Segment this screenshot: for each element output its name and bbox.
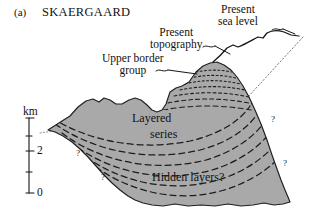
label-present-sea-level-line2: sea level [218,15,258,27]
label-upper-border-group-line1: Upper border [102,52,164,64]
km-axis [26,118,34,193]
question-mark-left-lower: ? [101,172,105,182]
axis-tick-label-0: 0 [37,187,43,199]
label-hidden-layers: Hidden layers? [152,171,224,183]
question-mark-left-upper: ? [76,148,80,158]
sea-level-leader [283,29,295,34]
label-upper-border-group: Upper border group [102,52,164,76]
label-upper-border-group-line2: group [102,64,164,76]
label-present-topography: Present topography [150,26,202,50]
label-present-topography-line2: topography [150,38,202,50]
sea-level-squiggle [272,29,283,30]
label-layered-series-line1: Layered [132,112,171,124]
question-mark-right-lower: ? [283,158,287,168]
label-layered-series-line2: series [150,128,177,140]
label-present-sea-level-line1: Present [218,3,258,15]
question-mark-right-upper: ? [271,114,275,124]
page-title: SKAERGAARD [42,6,130,19]
ubg-leader [168,70,197,74]
label-present-sea-level: Present sea level [218,3,258,27]
axis-unit-label: km [23,106,38,118]
label-present-topography-line1: Present [150,26,202,38]
axis-tick-label-2: 2 [37,145,43,157]
present-topography-line [213,31,299,62]
panel-letter: (a) [14,7,26,18]
topography-squiggle [203,46,215,47]
